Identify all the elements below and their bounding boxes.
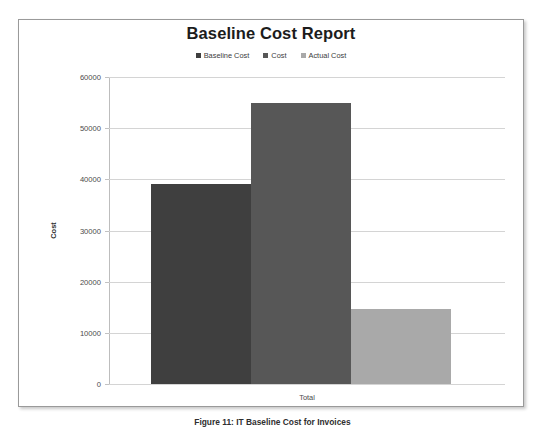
legend-label-baseline-cost: Baseline Cost [204,51,250,60]
y-axis-tick-label: 40000 [80,175,101,184]
legend-label-cost: Cost [271,51,286,60]
y-axis-tick-label: 60000 [80,73,101,82]
bar-baseline-cost[interactable] [151,184,251,384]
x-axis-tick-label-total: Total [299,393,315,402]
plot-area: 0100002000030000400005000060000 [109,77,505,384]
bar-series-group [110,77,505,384]
legend-item-baseline-cost[interactable]: Baseline Cost [196,51,250,60]
y-axis-tick-mark [105,333,109,334]
x-axis-labels: Total [109,386,505,404]
y-axis-tick-mark [105,77,109,78]
legend-swatch-actual-cost [301,53,306,58]
chart-legend: Baseline Cost Cost Actual Cost [19,51,523,60]
bar-actual-cost[interactable] [351,309,451,384]
chart-frame: Baseline Cost Report Baseline Cost Cost … [18,19,524,407]
chart-title: Baseline Cost Report [19,24,523,43]
y-axis-tick-mark [105,128,109,129]
y-axis-tick-mark [105,384,109,385]
y-axis-tick-mark [105,179,109,180]
y-axis-tick-label: 30000 [80,226,101,235]
legend-swatch-baseline-cost [196,53,201,58]
legend-item-cost[interactable]: Cost [263,51,286,60]
legend-label-actual-cost: Actual Cost [309,51,347,60]
gridline [109,384,505,385]
y-axis-tick-label: 50000 [80,124,101,133]
y-axis-tick-label: 10000 [80,328,101,337]
y-axis-title-label: Cost [49,222,58,238]
y-axis-tick-label: 20000 [80,277,101,286]
figure-caption: Figure 11: IT Baseline Cost for Invoices [0,417,545,427]
y-axis-tick-label: 0 [97,380,101,389]
y-axis-tick-mark [105,231,109,232]
y-axis-tick-mark [105,282,109,283]
legend-item-actual-cost[interactable]: Actual Cost [301,51,347,60]
y-axis-title: Cost [45,77,61,384]
legend-swatch-cost [263,53,268,58]
bar-cost[interactable] [251,103,351,384]
